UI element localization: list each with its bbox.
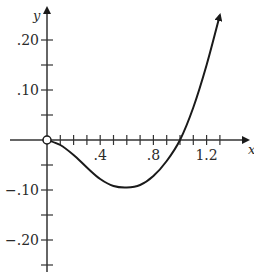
tick-marks: [41, 40, 220, 265]
origin-open-circle: [43, 136, 51, 144]
y-axis-label: y: [32, 8, 41, 23]
y-tick-label: −.20: [5, 232, 39, 248]
function-graph: y x .4.81.2.20.10−.10−.20: [0, 0, 254, 276]
x-axis-label: x: [248, 142, 254, 157]
y-tick-label: −.10: [5, 182, 39, 198]
x-tick-label: 1.2: [195, 147, 217, 163]
x-tick-label: .8: [147, 147, 160, 163]
y-tick-label: .10: [17, 82, 39, 98]
function-curve: [47, 15, 220, 188]
y-tick-label: .20: [17, 32, 39, 48]
x-tick-label: .4: [94, 147, 107, 163]
